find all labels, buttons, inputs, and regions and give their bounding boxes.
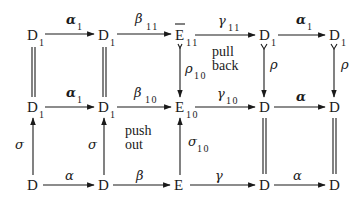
svg-text:1: 1 (77, 21, 84, 32)
node-d-r1c3: D (259, 99, 270, 115)
arrow-sigma10: σ 10 (180, 118, 210, 175)
svg-text:D: D (329, 177, 340, 193)
arrow-gamma-bot: γ (190, 168, 255, 185)
svg-text:10: 10 (226, 95, 239, 106)
svg-text:γ: γ (215, 168, 223, 183)
svg-text:1: 1 (307, 21, 314, 32)
equality-r0c1-r1c1 (103, 47, 106, 97)
svg-text:11: 11 (146, 21, 159, 32)
svg-text:α: α (65, 168, 74, 183)
arrow-sigma-c0: σ (15, 118, 36, 175)
arrow-gamma11: γ 11 (195, 13, 255, 35)
svg-text:D: D (27, 27, 38, 43)
arrow-alpha1-mid: α 1 (45, 85, 94, 107)
node-e-r2c2: E (174, 177, 183, 193)
svg-text:ρ: ρ (269, 57, 278, 72)
svg-text:1: 1 (77, 94, 84, 105)
arrow-beta-bot: β (113, 168, 170, 185)
svg-text:push: push (125, 123, 151, 138)
svg-text:α: α (293, 168, 302, 183)
svg-text:E: E (175, 27, 184, 43)
svg-text:11: 11 (228, 22, 241, 33)
svg-text:back: back (212, 58, 238, 73)
svg-text:β: β (133, 85, 142, 100)
svg-text:D: D (98, 27, 109, 43)
svg-text:1: 1 (39, 109, 46, 120)
svg-text:out: out (125, 137, 143, 152)
svg-text:ρ: ρ (340, 57, 349, 72)
node-d1-r0c1: D 1 (98, 27, 117, 48)
svg-text:β: β (135, 168, 144, 183)
arrow-alpha-bot-right: α (274, 168, 325, 185)
svg-text:1: 1 (39, 37, 46, 48)
commutative-diagram: D 1 D 1 E 11 D 1 D 1 α 1 β 11 γ 11 α 1 (0, 0, 359, 200)
node-d-r2c0: D (27, 177, 38, 193)
node-d-r2c3: D (259, 177, 270, 193)
svg-text:D: D (259, 177, 270, 193)
pullback-label: pull back (212, 44, 238, 73)
svg-text:σ: σ (88, 137, 98, 152)
svg-text:γ: γ (218, 13, 226, 28)
svg-text:β: β (134, 11, 143, 26)
svg-text:D: D (329, 99, 340, 115)
node-d1-r1c1: D 1 (98, 99, 117, 120)
equality-r1c4-r2c4 (333, 118, 336, 174)
svg-text:1: 1 (341, 37, 348, 48)
equality-r1c3-r2c3 (263, 118, 266, 174)
arrow-rho10: ρ 10 (178, 44, 207, 97)
arrow-alpha-mid: α (274, 89, 325, 107)
svg-text:γ: γ (217, 86, 225, 101)
svg-text:D: D (98, 177, 109, 193)
node-d1-r1c0: D 1 (27, 99, 46, 120)
arrow-alpha1-top-left: α 1 (45, 12, 94, 34)
svg-text:α: α (66, 85, 76, 100)
arrow-beta10: β 10 (117, 85, 171, 107)
arrow-rho-c4: ρ (331, 44, 349, 97)
equality-r0c0-r1c0 (32, 47, 35, 97)
node-e10-r1c2: E 10 (175, 99, 199, 120)
svg-text:10: 10 (194, 70, 207, 81)
arrow-gamma10: γ 10 (195, 86, 255, 107)
svg-text:E: E (175, 99, 184, 115)
svg-text:E: E (174, 177, 183, 193)
svg-text:ρ: ρ (184, 61, 193, 76)
svg-text:pull: pull (212, 44, 234, 59)
pushout-label: push out (125, 123, 151, 152)
svg-text:α: α (296, 89, 306, 104)
svg-text:1: 1 (110, 37, 117, 48)
svg-text:D: D (98, 99, 109, 115)
svg-text:10: 10 (145, 94, 158, 105)
arrow-alpha1-top-right: α 1 (278, 12, 325, 35)
svg-text:D: D (27, 177, 38, 193)
svg-text:D: D (259, 99, 270, 115)
svg-text:D: D (259, 27, 270, 43)
node-d-r2c4: D (329, 177, 340, 193)
svg-text:α: α (296, 12, 306, 27)
svg-text:1: 1 (271, 37, 278, 48)
svg-text:11: 11 (186, 37, 199, 48)
svg-text:D: D (329, 27, 340, 43)
node-d1-r0c0: D 1 (27, 27, 46, 48)
arrow-alpha-bot-left: α (43, 168, 94, 185)
arrow-beta11: β 11 (117, 11, 171, 34)
svg-text:α: α (66, 12, 76, 27)
svg-text:σ: σ (15, 137, 25, 152)
svg-text:1: 1 (110, 109, 117, 120)
svg-text:D: D (27, 99, 38, 115)
arrow-rho-c3: ρ (261, 44, 278, 97)
node-d-r2c1: D (98, 177, 109, 193)
node-d-r1c4: D (329, 99, 340, 115)
svg-text:10: 10 (186, 109, 199, 120)
svg-text:10: 10 (197, 143, 210, 154)
arrow-sigma-c1: σ (88, 118, 107, 175)
